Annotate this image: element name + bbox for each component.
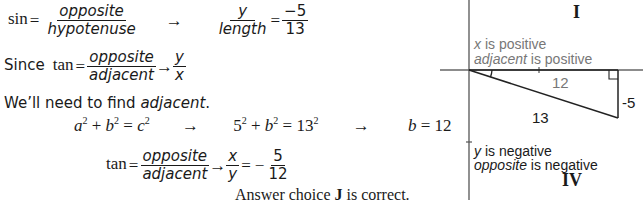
right-angle-marker bbox=[609, 70, 618, 79]
opposite-length-label: -5 bbox=[622, 94, 635, 111]
var-adjacent: adjacent bbox=[474, 51, 527, 67]
note-text: is positive bbox=[527, 51, 592, 67]
note-line-1: y is negative bbox=[474, 144, 598, 158]
axes-and-triangle-graphic bbox=[0, 0, 643, 208]
quadrant-IV-label: IV bbox=[562, 170, 582, 191]
note-line-1: x is positive bbox=[474, 37, 592, 52]
angle-arc bbox=[491, 70, 493, 77]
quadrant-I-label: I bbox=[573, 2, 580, 23]
adjacent-length-label: 12 bbox=[552, 74, 569, 91]
negative-y-note: y is negative opposite is negative bbox=[474, 144, 598, 172]
note-line-2: opposite is negative bbox=[474, 158, 598, 172]
var-x: x bbox=[474, 36, 481, 52]
hypotenuse-length-label: 13 bbox=[532, 109, 549, 126]
note-text: is positive bbox=[481, 36, 546, 52]
positive-x-note: x is positive adjacent is positive bbox=[474, 37, 592, 67]
note-text: is negative bbox=[527, 157, 598, 173]
note-line-2: adjacent is positive bbox=[474, 52, 592, 67]
var-opposite: opposite bbox=[474, 157, 527, 173]
